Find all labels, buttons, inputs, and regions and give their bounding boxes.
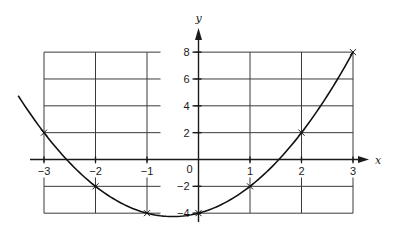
x-axis-arrow-icon bbox=[358, 156, 369, 163]
y-tick-label: 4 bbox=[183, 100, 189, 112]
x-tick-label: −3 bbox=[38, 165, 51, 177]
y-tick-label: 6 bbox=[183, 73, 189, 85]
x-tick-label: −2 bbox=[89, 165, 102, 177]
function-graph: x y −3−2−1123−4−224680 bbox=[0, 0, 400, 230]
y-tick-label: −4 bbox=[177, 207, 190, 219]
x-tick-label: 2 bbox=[298, 165, 304, 177]
x-tick-label: 3 bbox=[350, 165, 356, 177]
y-tick-label: 2 bbox=[183, 127, 189, 139]
y-axis-label: y bbox=[195, 12, 203, 25]
y-axis-arrow-icon bbox=[195, 28, 202, 40]
x-tick-label: 1 bbox=[247, 165, 253, 177]
axes: x y bbox=[30, 12, 382, 222]
origin-label: 0 bbox=[186, 163, 192, 175]
x-tick-label: −1 bbox=[141, 165, 154, 177]
y-tick-label: 8 bbox=[183, 46, 189, 58]
y-tick-label: −2 bbox=[177, 180, 190, 192]
x-axis-label: x bbox=[375, 154, 382, 167]
